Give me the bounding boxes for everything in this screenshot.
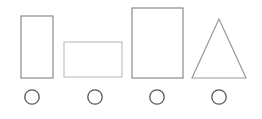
figure-background [0, 0, 262, 119]
figure-canvas [0, 0, 262, 119]
shape-question-figure [0, 0, 262, 119]
